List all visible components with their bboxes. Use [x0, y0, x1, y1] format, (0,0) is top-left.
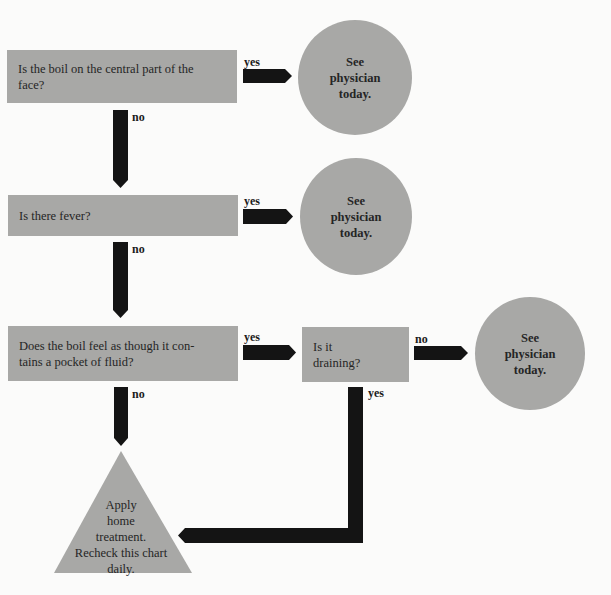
- edge-label-yes: yes: [244, 195, 260, 207]
- arrow-right-q1-yes: [243, 69, 292, 83]
- arrow-right-q3-yes: [243, 345, 296, 360]
- question-node-central-face: Is the boil on the central part of the f…: [7, 50, 237, 103]
- edge-label-no: no: [415, 333, 428, 345]
- edge-label-no: no: [132, 388, 145, 400]
- question-node-pocket-of-fluid: Does the boil feel as though it con- tai…: [8, 326, 238, 381]
- outcome-text: See physician today.: [321, 193, 391, 241]
- question-text-line: draining?: [313, 355, 360, 371]
- edge-label-yes: yes: [244, 56, 260, 68]
- arrow-right-q2-yes: [243, 209, 293, 224]
- outcome-text-line: Recheck this chart: [61, 545, 181, 561]
- edge-label-no: no: [132, 111, 145, 123]
- edge-label-no: no: [132, 243, 145, 255]
- edge-label-yes: yes: [244, 331, 260, 343]
- question-text-line: Is it: [313, 339, 360, 355]
- outcome-text-line: home: [61, 513, 181, 529]
- arrow-down-q3-no: [114, 387, 128, 446]
- outcome-circle-see-physician: See physician today.: [475, 297, 585, 410]
- question-text-line: tains a pocket of fluid?: [19, 354, 194, 370]
- outcome-text: See physician today.: [495, 330, 565, 378]
- outcome-circle-see-physician: See physician today.: [300, 158, 412, 275]
- arrow-elbow-q4-yes: [178, 387, 363, 543]
- outcome-text: See physician today.: [320, 54, 390, 102]
- outcome-text-line: Apply: [61, 497, 181, 513]
- arrow-down-q2-no: [113, 242, 128, 318]
- outcome-home-treatment-text: Apply home treatment. Recheck this chart…: [61, 497, 181, 577]
- arrow-right-q4-no: [414, 346, 468, 360]
- arrow-down-q1-no: [113, 110, 128, 188]
- question-node-fever: Is there fever?: [8, 195, 238, 236]
- outcome-text-line: daily.: [61, 561, 181, 577]
- outcome-text-line: treatment.: [61, 529, 181, 545]
- outcome-circle-see-physician: See physician today.: [298, 20, 412, 135]
- edge-label-yes: yes: [368, 387, 384, 399]
- question-node-draining: Is it draining?: [302, 327, 409, 382]
- question-text-line: Does the boil feel as though it con-: [19, 338, 194, 354]
- question-text: Is there fever?: [19, 208, 90, 224]
- question-text: Is the boil on the central part of the f…: [18, 61, 208, 93]
- question-text: Does the boil feel as though it con- tai…: [19, 338, 194, 370]
- question-text: Is it draining?: [313, 339, 360, 371]
